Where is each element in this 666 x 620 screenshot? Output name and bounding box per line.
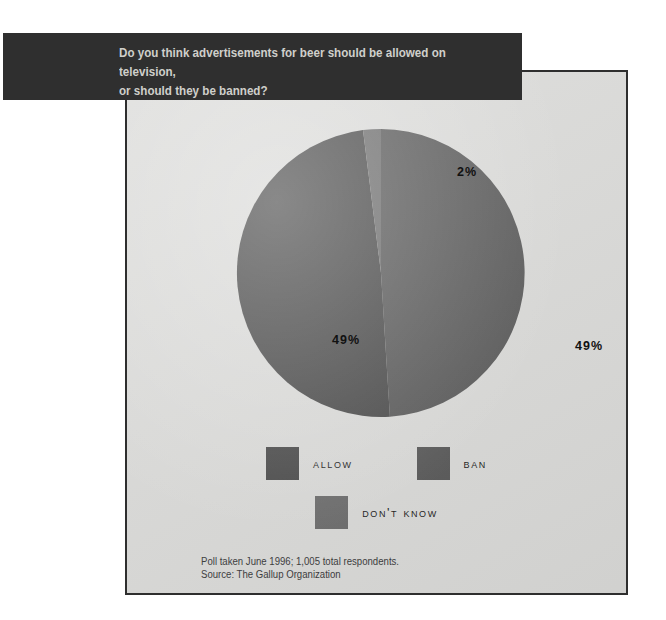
pie-slice-allow[interactable] <box>237 130 390 417</box>
pie-chart-svg <box>235 127 527 419</box>
legend-item-dont-know[interactable]: Don't know <box>315 496 438 529</box>
legend-swatch-allow <box>266 447 299 480</box>
legend: Allow Ban Don't know <box>127 447 626 529</box>
source-note: Poll taken June 1996; 1,005 total respon… <box>201 555 399 581</box>
pie-label-ban: 49% <box>575 339 603 353</box>
pie-slice-ban[interactable] <box>381 129 525 417</box>
legend-label-ban: Ban <box>464 456 487 471</box>
legend-item-ban[interactable]: Ban <box>417 447 487 480</box>
title-banner: Do you think advertisements for beer sho… <box>3 33 522 100</box>
legend-swatch-ban <box>417 447 450 480</box>
legend-row: Don't know <box>127 496 626 529</box>
legend-label-dont-know: Don't know <box>362 505 438 520</box>
poll-question: Do you think advertisements for beer sho… <box>119 44 482 101</box>
pie-label-dont-know: 2% <box>457 165 477 179</box>
chart-frame: 49% 49% 2% Allow Ban Don't know Poll tak… <box>125 70 628 595</box>
legend-item-allow[interactable]: Allow <box>266 447 353 480</box>
legend-row: Allow Ban <box>127 447 626 480</box>
legend-label-allow: Allow <box>313 456 353 471</box>
pie-chart: 49% 49% 2% <box>235 127 527 419</box>
legend-swatch-dont-know <box>315 496 348 529</box>
pie-label-allow: 49% <box>332 333 360 347</box>
